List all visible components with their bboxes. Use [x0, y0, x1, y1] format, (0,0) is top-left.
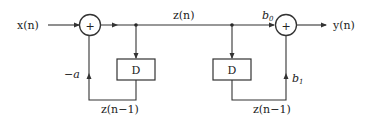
svg-text:+: +	[85, 20, 94, 33]
state-label: z(n)	[173, 9, 194, 22]
arrow-head-icon	[87, 73, 92, 79]
svg-text:D: D	[228, 64, 237, 77]
signal-flow-diagram: x(n) + z(n) b0 + y(n) D −a z(n−1) D b1 z	[0, 0, 373, 124]
arrow-head-icon	[112, 23, 118, 28]
arrow-head-icon	[284, 73, 289, 79]
coef-b0-label: b0	[262, 9, 274, 23]
svg-text:+: +	[281, 20, 290, 33]
adder-2: +	[276, 15, 297, 36]
coef-feedback-label: −a	[64, 68, 80, 81]
delay-block-2: D	[213, 59, 251, 80]
svg-text:D: D	[132, 64, 141, 77]
output-label: y(n)	[332, 19, 355, 32]
input-label: x(n)	[17, 19, 39, 32]
delayed-label-2: z(n−1)	[253, 103, 291, 116]
delay-block-1: D	[117, 59, 155, 80]
delayed-label-1: z(n−1)	[101, 103, 139, 116]
coef-b1-label: b1	[292, 72, 304, 86]
adder-1: +	[80, 15, 101, 36]
